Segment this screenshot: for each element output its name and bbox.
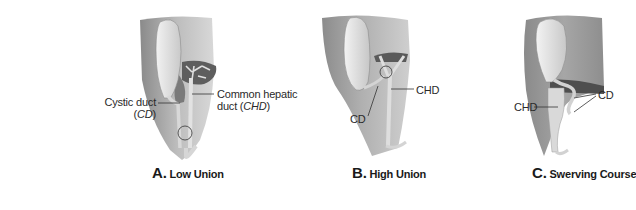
cd-label: CD xyxy=(350,113,366,125)
chd-line2-post: ) xyxy=(267,100,270,112)
cystic-duct-label: Cystic duct (CD) xyxy=(90,96,156,120)
panel-c-caption-text: Swerving Course xyxy=(549,168,636,180)
cd-abbrev: CD xyxy=(137,108,153,120)
cd-label: CD xyxy=(598,89,614,101)
chd-abbrev: CHD xyxy=(243,100,266,112)
cystic-duct-abbrev-line: (CD) xyxy=(90,108,156,120)
panel-a-caption: A. Low Union xyxy=(152,164,224,181)
panel-c-caption: C. Swerving Course xyxy=(532,164,636,181)
panel-a-letter: A. xyxy=(152,164,167,181)
panel-a-caption-text: Low Union xyxy=(169,168,223,180)
chd-line2-pre: duct ( xyxy=(217,100,243,112)
panel-b-caption: B. High Union xyxy=(352,164,426,181)
panel-c-letter: C. xyxy=(532,164,547,181)
cystic-duct-text: Cystic duct xyxy=(90,96,156,108)
panel-b-high-union: CD CHD B. High Union xyxy=(280,0,460,210)
panel-a-low-union: Cystic duct (CD) Common hepatic duct (CH… xyxy=(0,0,280,210)
chd-label: CHD xyxy=(416,84,439,96)
panel-b-caption-text: High Union xyxy=(369,168,426,180)
panel-c-swerving-course: CHD CD C. Swerving Course xyxy=(460,0,615,210)
paren-close: ) xyxy=(153,108,156,120)
panel-b-letter: B. xyxy=(352,164,367,181)
chd-label: CHD xyxy=(514,101,537,113)
